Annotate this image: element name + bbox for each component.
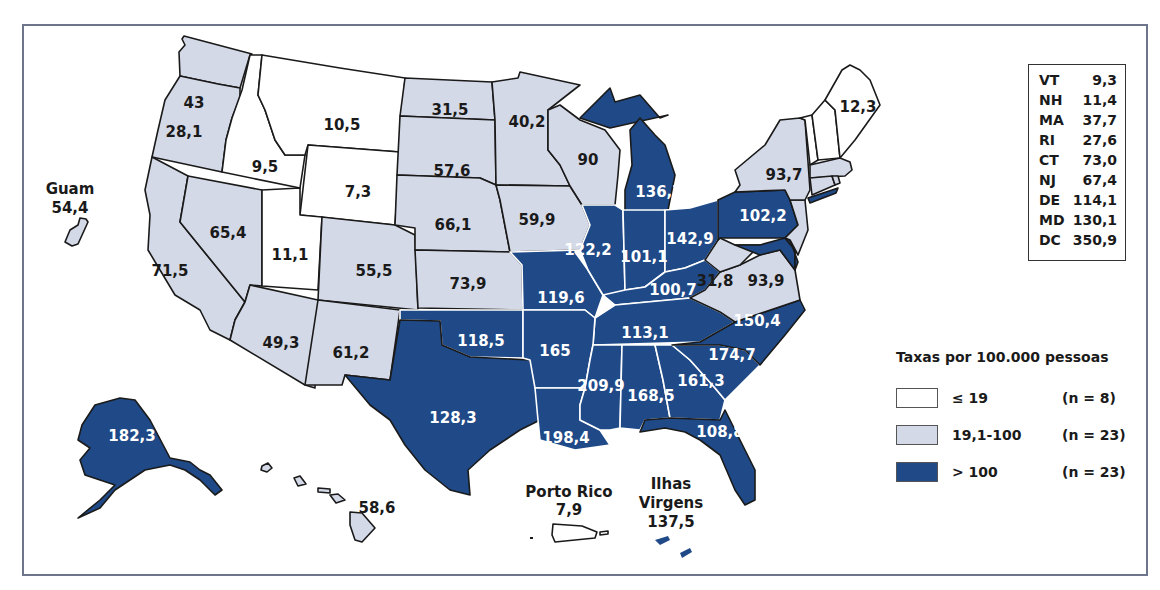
ne-row-vt: VT9,3 xyxy=(1039,70,1117,90)
ne-state: CT xyxy=(1039,150,1059,170)
label-ga: 161,3 xyxy=(677,372,724,390)
state-hi-maui[interactable] xyxy=(330,494,345,503)
label-wa: 43 xyxy=(184,94,205,112)
ne-row-ri: RI27,6 xyxy=(1039,130,1117,150)
legend-row-low: ≤ 19 (n = 8) xyxy=(896,379,1146,416)
label-nd: 31,5 xyxy=(431,101,468,119)
ne-state: DC xyxy=(1039,230,1061,250)
legend-range: > 100 xyxy=(952,464,1062,480)
label-nm: 61,2 xyxy=(332,344,369,362)
legend-count: (n = 8) xyxy=(1062,390,1116,406)
legend-row-mid: 19,1-100 (n = 23) xyxy=(896,416,1146,453)
label-la: 198,4 xyxy=(542,429,589,447)
us-map: 43 28,1 9,5 10,5 7,3 65,4 11,1 71,5 55,5… xyxy=(0,0,1160,590)
label-ar: 165 xyxy=(539,342,570,360)
state-nm[interactable] xyxy=(305,300,400,385)
legend: Taxas por 100.000 pessoas ≤ 19 (n = 8) 1… xyxy=(896,349,1146,490)
label-il: 122,2 xyxy=(564,241,611,259)
label-ia: 59,9 xyxy=(518,211,555,229)
label-ut: 11,1 xyxy=(271,246,308,264)
label-ca: 71,5 xyxy=(151,262,188,280)
state-mi-upper[interactable] xyxy=(580,88,668,128)
label-in: 101,1 xyxy=(620,248,667,266)
label-ok: 118,5 xyxy=(457,332,504,350)
label-pa: 102,2 xyxy=(739,207,786,225)
label-va: 93,9 xyxy=(747,272,784,290)
label-mi: 136,7 xyxy=(635,183,682,201)
legend-range: ≤ 19 xyxy=(952,390,1062,406)
legend-swatch-mid xyxy=(896,425,938,445)
state-ak[interactable] xyxy=(78,398,222,518)
label-az: 49,3 xyxy=(262,334,299,352)
ne-row-ma: MA37,7 xyxy=(1039,110,1117,130)
label-fl: 108,8 xyxy=(696,423,743,441)
label-ky: 100,7 xyxy=(649,281,696,299)
label-pr-name: Porto Rico xyxy=(525,483,612,501)
territory-pr-mona xyxy=(530,537,533,539)
state-ny[interactable] xyxy=(735,118,810,200)
label-wi: 90 xyxy=(578,151,599,169)
ne-state: RI xyxy=(1039,130,1055,150)
ne-state: MA xyxy=(1039,110,1064,130)
ne-row-ct: CT73,0 xyxy=(1039,150,1117,170)
ne-state: VT xyxy=(1039,70,1059,90)
ne-state: NJ xyxy=(1039,170,1056,190)
label-hi: 58,6 xyxy=(358,499,395,517)
legend-count: (n = 23) xyxy=(1062,427,1126,443)
ne-value: 73,0 xyxy=(1082,150,1117,170)
ne-state: NH xyxy=(1039,90,1062,110)
ne-value: 27,6 xyxy=(1082,130,1117,150)
legend-count: (n = 23) xyxy=(1062,464,1126,480)
label-pr-value: 7,9 xyxy=(556,501,583,519)
label-nc: 150,4 xyxy=(733,312,780,330)
label-oh: 142,9 xyxy=(666,230,713,248)
ne-value: 11,4 xyxy=(1082,90,1117,110)
label-me: 12,3 xyxy=(839,98,876,116)
legend-row-high: > 100 (n = 23) xyxy=(896,453,1146,490)
label-nv: 65,4 xyxy=(209,224,246,242)
label-sd: 57,6 xyxy=(433,162,470,180)
label-ne: 66,1 xyxy=(434,216,471,234)
ne-row-nj: NJ67,4 xyxy=(1039,170,1117,190)
label-tn: 113,1 xyxy=(621,324,668,342)
label-vi-value: 137,5 xyxy=(647,513,694,531)
ne-value: 114,1 xyxy=(1073,190,1117,210)
label-al: 168,5 xyxy=(627,387,674,405)
legend-range: 19,1-100 xyxy=(952,427,1062,443)
label-ak: 182,3 xyxy=(108,427,155,445)
label-ny: 93,7 xyxy=(765,166,802,184)
label-mt: 10,5 xyxy=(323,116,360,134)
label-ms: 209,9 xyxy=(577,377,624,395)
label-or: 28,1 xyxy=(165,123,202,141)
label-wv: 31,8 xyxy=(696,272,733,290)
label-vi-name-1: Ilhas xyxy=(651,475,692,493)
ne-value: 67,4 xyxy=(1082,170,1117,190)
legend-title: Taxas por 100.000 pessoas xyxy=(896,349,1146,365)
label-tx: 128,3 xyxy=(429,409,476,427)
ne-state: MD xyxy=(1039,210,1065,230)
ne-value: 350,9 xyxy=(1073,230,1117,250)
territory-guam[interactable] xyxy=(65,218,88,246)
territory-pr-islet[interactable] xyxy=(600,531,608,535)
ne-value: 130,1 xyxy=(1073,210,1117,230)
territory-pr[interactable] xyxy=(552,524,597,542)
ne-row-de: DE114,1 xyxy=(1039,190,1117,210)
state-mt[interactable] xyxy=(258,55,405,155)
ne-row-dc: DC350,9 xyxy=(1039,230,1117,250)
state-hi-oahu[interactable] xyxy=(294,476,306,486)
label-ks: 73,9 xyxy=(449,275,486,293)
state-hi-kauai[interactable] xyxy=(261,463,272,472)
label-id: 9,5 xyxy=(252,158,279,176)
label-mn: 40,2 xyxy=(508,113,545,131)
label-guam-value: 54,4 xyxy=(51,199,88,217)
territory-vi-1[interactable] xyxy=(655,536,670,545)
label-vi-name-2: Virgens xyxy=(639,494,703,512)
ne-row-nh: NH11,4 xyxy=(1039,90,1117,110)
label-mo: 119,6 xyxy=(537,289,584,307)
territory-vi-2[interactable] xyxy=(680,548,692,558)
label-co: 55,5 xyxy=(355,262,392,280)
ne-state: DE xyxy=(1039,190,1060,210)
state-hi-molokai[interactable] xyxy=(318,488,330,493)
legend-swatch-low xyxy=(896,388,938,408)
label-wy: 7,3 xyxy=(345,183,372,201)
